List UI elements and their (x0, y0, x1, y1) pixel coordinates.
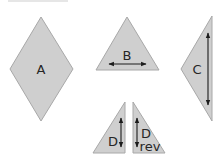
shape-c: C (181, 16, 212, 121)
shape-b: B (96, 17, 159, 70)
shape-d-rev-label-line2: rev (140, 139, 161, 154)
shape-a: A (10, 17, 73, 121)
shape-c-label: C (192, 62, 201, 77)
quilt-template-diagram: A B C D D rev (0, 0, 223, 166)
shape-d: D (93, 102, 125, 153)
shape-d-label: D (108, 134, 118, 149)
shape-d-rev: D rev (133, 102, 165, 154)
shape-a-label: A (37, 62, 46, 77)
shape-b-label: B (123, 48, 132, 63)
